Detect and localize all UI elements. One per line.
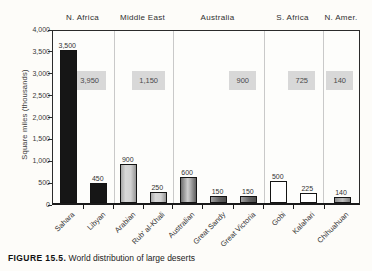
y-tick-mark (48, 30, 52, 31)
y-tick-mark (48, 205, 52, 206)
region-total-badge: 900 (229, 71, 256, 90)
bar-great-sandy (210, 196, 227, 203)
y-tick-mark (48, 95, 52, 96)
bar-rub-al-khali (150, 192, 167, 203)
region-total-badge: 1,150 (132, 71, 165, 90)
y-tick-label: 2,500 (22, 92, 50, 99)
bar-arabian (120, 164, 137, 203)
group-divider (264, 31, 265, 203)
bar-great-victoria (240, 196, 257, 203)
bar-value-label: 150 (242, 188, 254, 195)
y-tick-label: 3,000 (22, 70, 50, 77)
bar-value-label: 450 (92, 175, 104, 182)
group-divider (323, 31, 324, 203)
x-category-label: Kalahari (291, 210, 317, 236)
y-tick-label: 2,000 (22, 114, 50, 121)
y-tick-mark (48, 183, 52, 184)
x-tick-mark (293, 205, 294, 209)
x-tick-mark (233, 205, 234, 209)
group-divider (173, 31, 174, 203)
x-tick-mark (172, 205, 173, 209)
y-tick-label: 0 (22, 201, 50, 208)
bar-value-label: 600 (181, 169, 193, 176)
bar-value-label: 140 (335, 189, 347, 196)
region-label: S. Africa (276, 13, 309, 22)
y-tick-mark (48, 73, 52, 74)
x-category-label: Gobi (270, 210, 288, 228)
figure-15-5: Square miles (thousands) 3,9501,15090072… (0, 0, 372, 271)
region-label: N. Amer. (324, 13, 357, 22)
y-tick-mark (48, 139, 52, 140)
figure-caption-text: World distribution of large deserts (69, 253, 195, 263)
bar-value-label: 500 (272, 173, 284, 180)
y-tick-mark (48, 51, 52, 52)
bar-value-label: 250 (151, 184, 163, 191)
y-tick-label: 3,500 (22, 48, 50, 55)
bar-gobi (270, 181, 287, 203)
figure-caption-number: FIGURE 15.5. (8, 253, 66, 263)
region-label: Middle East (120, 13, 165, 22)
x-tick-mark (263, 205, 264, 209)
bar-sahara (60, 50, 77, 203)
bar-value-label: 900 (122, 156, 134, 163)
x-tick-mark (202, 205, 203, 209)
y-tick-mark (48, 117, 52, 118)
x-tick-mark (324, 205, 325, 209)
x-category-label: Chihuahuan (315, 210, 350, 245)
region-label: N. Africa (66, 13, 99, 22)
region-label: Australia (201, 13, 235, 22)
x-category-label: Sahara (53, 210, 76, 233)
x-tick-mark (83, 205, 84, 209)
x-category-label: Australian (167, 210, 197, 240)
bar-value-label: 150 (212, 188, 224, 195)
y-tick-label: 4,000 (22, 26, 50, 33)
region-total-badge: 3,950 (73, 71, 106, 90)
x-category-label: Arabian (112, 210, 137, 235)
bar-value-label: 3,500 (58, 42, 76, 49)
x-tick-mark (113, 205, 114, 209)
x-tick-mark (143, 205, 144, 209)
y-tick-label: 500 (22, 179, 50, 186)
bar-libyan (90, 183, 107, 203)
bar-value-label: 225 (301, 185, 313, 192)
x-category-label: Libyan (85, 210, 107, 232)
region-total-badge: 140 (326, 71, 353, 90)
y-tick-label: 1,000 (22, 157, 50, 164)
bar-chihuahuan (334, 197, 351, 203)
bar-kalahari (300, 193, 317, 203)
figure-caption: FIGURE 15.5. World distribution of large… (8, 253, 195, 263)
y-tick-label: 1,500 (22, 135, 50, 142)
region-total-badge: 725 (288, 71, 315, 90)
y-tick-mark (48, 161, 52, 162)
group-divider (114, 31, 115, 203)
bar-australian (180, 177, 197, 203)
